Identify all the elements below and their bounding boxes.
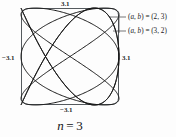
annotation-label-2-3: (a, b) = (2, 3)	[128, 14, 167, 21]
axis-label-left: −3.1	[2, 55, 14, 62]
annotation-values-1: ) = (2, 3)	[141, 13, 167, 21]
axis-label-top: 3.1	[61, 1, 69, 8]
caption-value: 3	[76, 118, 83, 133]
lissajous-figure: 3.1 −3.1 −3.1 3.1 (a, b) = (2, 3) (a, b)…	[0, 0, 176, 137]
annotation-label-3-2: (a, b) = (3, 2)	[128, 28, 167, 35]
axis-label-bottom: −3.1	[60, 107, 72, 114]
axis-label-right: 3.1	[122, 55, 130, 62]
caption-equals: =	[66, 118, 73, 133]
figure-caption: n = 3	[0, 119, 140, 132]
annotation-values-2: ) = (3, 2)	[141, 27, 167, 35]
